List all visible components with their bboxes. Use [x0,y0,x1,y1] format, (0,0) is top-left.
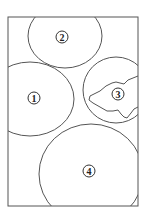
region-3-label: 3 [112,88,124,100]
region-4-label-text: 4 [87,166,92,177]
region-3-label-text: 3 [116,89,121,100]
region-2-label: 2 [56,31,68,43]
region-2-label-text: 2 [60,32,65,43]
region-diagram: 1 2 3 4 [0,0,146,215]
region-1-label: 1 [28,92,40,104]
region-4-label: 4 [83,165,95,177]
region-1-label-text: 1 [32,93,37,104]
